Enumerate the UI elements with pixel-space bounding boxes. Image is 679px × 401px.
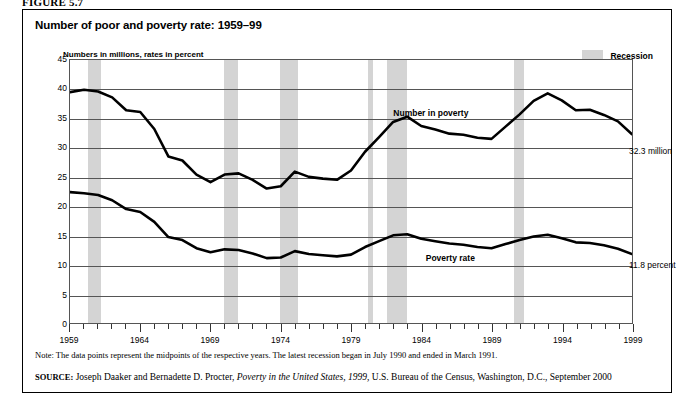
y-axis-tick-label: 45 [47,54,67,64]
y-axis-tick-label: 5 [47,290,67,300]
x-axis-tick [196,324,197,329]
x-axis-tick [605,324,606,329]
y-axis-tick-label: 15 [47,231,67,241]
x-axis-tick-label: 1959 [60,335,79,345]
x-axis-tick-label: 1999 [624,335,643,345]
x-axis-tick [393,324,394,329]
x-axis-tick [379,324,380,329]
y-axis-tick-label: 10 [47,260,67,270]
x-axis-tick [238,324,239,329]
source-publication: Poverty in the United States, 1999, [237,372,370,382]
source-publisher: U.S. Bureau of the Census, Washington, D… [372,372,612,382]
x-axis-tick [266,324,267,329]
x-axis-tick-label: 1994 [553,335,572,345]
x-axis-tick [450,324,451,329]
y-axis-tick-label: 20 [47,201,67,211]
x-axis-tick [591,324,592,329]
x-axis-tick [111,324,112,329]
x-axis-tick [125,324,126,329]
x-axis-tick-label: 1984 [412,335,431,345]
x-axis-tick [69,324,70,332]
source-authors: Joseph Daaker and Bernadette D. Procter, [76,372,235,382]
series-line [70,90,632,189]
x-axis-tick [83,324,84,329]
figure-label: FIGURE 5.7 [22,0,83,8]
figure-box: Number of poor and poverty rate: 1959–99… [22,9,672,393]
x-axis-tick-label: 1974 [271,335,290,345]
x-axis-tick [563,324,564,332]
figure-root: FIGURE 5.7 Number of poor and poverty ra… [0,0,679,401]
x-axis-tick [337,324,338,329]
axis-caption: Numbers in millions, rates in percent [63,50,203,59]
x-axis-tick [534,324,535,329]
x-axis-tick [422,324,423,332]
series-line [70,192,632,258]
x-axis-tick [577,324,578,329]
x-axis-tick [464,324,465,329]
y-axis-tick-label: 25 [47,172,67,182]
x-axis-tick [295,324,296,329]
y-axis-tick-label: 40 [47,83,67,93]
end-value-number-in-poverty: 32.3 million [629,146,672,156]
x-axis-tick [140,324,141,332]
x-axis-tick [351,324,352,332]
source-prefix: SOURCE: [35,372,73,382]
x-axis-tick [323,324,324,329]
x-axis-tick [182,324,183,329]
x-axis-tick [478,324,479,329]
x-axis-tick [97,324,98,329]
page-title: Number of poor and poverty rate: 1959–99 [35,19,262,31]
x-axis-tick-label: 1964 [130,335,149,345]
x-axis-tick [281,324,282,332]
x-axis-tick [548,324,549,329]
x-axis-tick [154,324,155,329]
x-axis-tick [210,324,211,332]
x-axis-tick [168,324,169,329]
end-value-poverty-rate: 11.8 percent [629,260,676,270]
chart-source: SOURCE: Joseph Daaker and Bernadette D. … [35,372,612,382]
x-axis-tick [619,324,620,329]
x-axis-tick [492,324,493,332]
chart-note: Note: The data points represent the midp… [35,350,497,360]
series-layer [70,60,632,323]
y-axis-tick-label: 35 [47,113,67,123]
x-axis-tick [224,324,225,329]
x-axis-tick [506,324,507,329]
x-axis-tick [309,324,310,329]
x-axis-tick [520,324,521,329]
y-axis-tick-label: 0 [47,319,67,329]
plot-area: 051015202530354045 195919641969197419791… [47,59,633,333]
y-axis-tick-label: 30 [47,142,67,152]
series-label-number-in-poverty: Number in poverty [393,108,468,118]
series-label-poverty-rate: Poverty rate [426,253,475,263]
x-axis-tick-label: 1969 [201,335,220,345]
x-axis-tick [252,324,253,329]
x-axis-tick [436,324,437,329]
x-axis-tick [407,324,408,329]
x-axis-tick [633,324,634,332]
x-axis-tick-label: 1979 [342,335,361,345]
x-axis-tick [365,324,366,329]
x-axis-tick-label: 1989 [483,335,502,345]
plot-frame [69,59,633,324]
